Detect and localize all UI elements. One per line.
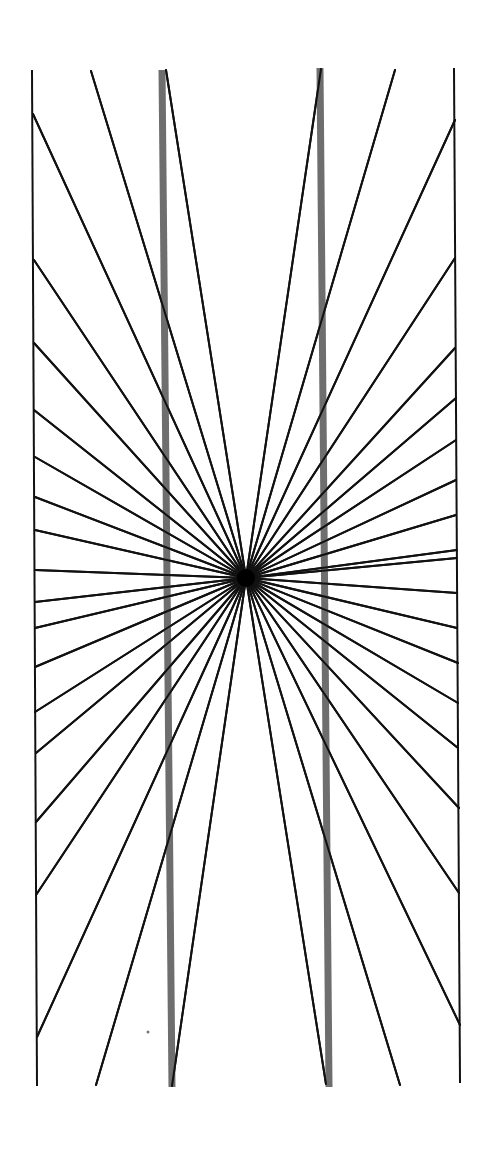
- convergence-point: [237, 569, 255, 587]
- hering-illusion-figure: [0, 0, 492, 1161]
- print-speck: [147, 1031, 150, 1034]
